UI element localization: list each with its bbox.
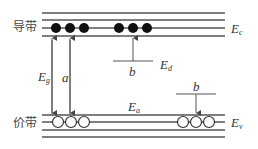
holes-group-left (53, 117, 90, 128)
valence-edge-label: Ev (231, 116, 243, 131)
donor-level-label: Ed (160, 58, 172, 73)
gap-label: Eg (38, 70, 50, 85)
donor-transition-label: b (129, 65, 136, 78)
ed-symbol: E (160, 57, 168, 72)
ev-subscript: v (239, 122, 243, 131)
ea-symbol: E (128, 99, 136, 114)
transition-a-label: a (62, 71, 69, 84)
conduction-band-label: 导带 (13, 21, 37, 33)
ea-subscript: a (136, 106, 140, 115)
eg-symbol: E (38, 69, 46, 84)
acceptor-transition-label: b (193, 80, 200, 93)
ev-symbol: E (231, 115, 239, 130)
eg-subscript: g (46, 76, 50, 85)
ec-subscript: c (239, 28, 243, 37)
electrons-group-left (51, 23, 89, 33)
acceptor-level-label: Ea (128, 100, 140, 115)
conduction-edge-label: Ec (231, 22, 243, 37)
electrons-group-right (114, 23, 152, 33)
holes-group-right (178, 117, 215, 128)
ed-subscript: d (168, 64, 172, 73)
ec-symbol: E (231, 21, 239, 36)
energy-band-diagram: 导带 价带 Ec Ev Ed Ea Eg a b b (0, 0, 258, 149)
valence-band-label: 价带 (13, 117, 37, 129)
